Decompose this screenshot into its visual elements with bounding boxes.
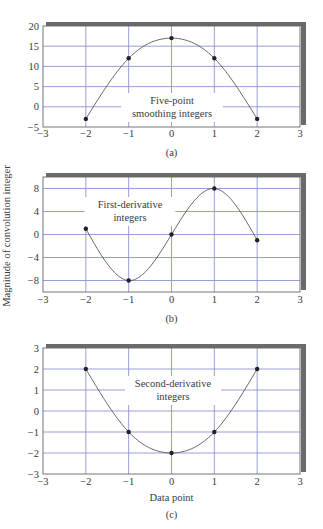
chart-panel-c: Second-derivativeintegers−3−2−10123−3−2−… <box>28 343 306 522</box>
annotation-line: First-derivative <box>98 199 163 210</box>
x-tick-label: 1 <box>212 128 217 139</box>
y-tick-label: 20 <box>29 21 40 32</box>
data-point <box>169 232 173 236</box>
data-point <box>255 367 259 371</box>
x-tick-label: −1 <box>123 294 134 305</box>
frame-shadow-top <box>46 173 305 177</box>
x-tick-label: −3 <box>37 476 48 487</box>
y-tick-label: −2 <box>28 448 39 459</box>
frame-shadow-right <box>301 173 306 290</box>
annotation-line: Five-point <box>150 95 194 106</box>
y-tick-label: 0 <box>34 101 39 112</box>
frame-shadow-right <box>301 22 306 125</box>
y-tick-label: 5 <box>34 81 39 92</box>
y-axis-label: Magnitude of convolution integer <box>1 165 12 307</box>
data-point <box>84 367 88 371</box>
y-tick-label: 1 <box>34 385 39 396</box>
x-tick-label: 0 <box>169 128 174 139</box>
data-point <box>126 430 130 434</box>
data-point <box>255 117 259 121</box>
data-point <box>169 36 173 40</box>
data-point <box>126 278 130 282</box>
x-tick-label: −1 <box>123 128 134 139</box>
data-point <box>212 186 216 190</box>
y-tick-label: −4 <box>28 252 40 263</box>
data-point <box>126 56 130 60</box>
data-point <box>212 56 216 60</box>
y-tick-label: 0 <box>34 406 39 417</box>
panel-caption: (c) <box>166 509 178 521</box>
y-tick-label: −8 <box>28 275 39 286</box>
x-tick-label: 0 <box>169 294 174 305</box>
y-tick-label: −5 <box>28 122 39 133</box>
frame-shadow-top <box>46 22 305 26</box>
chart-panel-a: Five-pointsmoothing integers−3−2−10123−5… <box>28 21 306 160</box>
x-axis-label: Data point <box>149 492 193 503</box>
x-tick-label: 2 <box>255 128 260 139</box>
x-tick-label: −3 <box>37 128 48 139</box>
data-point <box>169 451 173 455</box>
y-tick-label: −1 <box>28 427 39 438</box>
frame-shadow-right <box>301 344 306 472</box>
annotation-line: smoothing integers <box>132 108 212 119</box>
y-tick-label: 15 <box>29 41 40 52</box>
y-tick-label: 2 <box>34 364 39 375</box>
y-tick-label: 3 <box>34 343 39 354</box>
chart-panel-b: First-derivativeintegers−3−2−10123−8−404… <box>28 173 306 325</box>
x-tick-label: 3 <box>297 128 302 139</box>
annotation-line: integers <box>156 391 189 402</box>
x-tick-label: 1 <box>212 476 217 487</box>
x-tick-label: −2 <box>80 294 91 305</box>
x-tick-label: 3 <box>297 476 302 487</box>
x-tick-label: 1 <box>212 294 217 305</box>
x-tick-label: 0 <box>169 476 174 487</box>
frame-shadow-top <box>46 344 305 348</box>
figure-convolution-integers: Five-pointsmoothing integers−3−2−10123−5… <box>0 0 323 529</box>
x-tick-label: 2 <box>255 294 260 305</box>
y-tick-label: 4 <box>34 206 40 217</box>
data-point <box>84 117 88 121</box>
annotation-line: integers <box>113 212 146 223</box>
data-point <box>84 227 88 231</box>
y-tick-label: 8 <box>34 183 39 194</box>
data-point <box>212 430 216 434</box>
y-tick-label: 10 <box>29 61 40 72</box>
y-tick-label: 0 <box>34 229 39 240</box>
annotation-line: Second-derivative <box>135 378 212 389</box>
x-tick-label: −2 <box>80 128 91 139</box>
x-tick-label: −2 <box>80 476 91 487</box>
data-point <box>255 238 259 242</box>
x-tick-label: 3 <box>297 294 302 305</box>
panel-caption: (a) <box>166 147 178 159</box>
x-tick-label: −1 <box>123 476 134 487</box>
panel-caption: (b) <box>165 313 178 325</box>
y-tick-label: −3 <box>28 469 39 480</box>
x-tick-label: −3 <box>37 294 48 305</box>
x-tick-label: 2 <box>255 476 260 487</box>
